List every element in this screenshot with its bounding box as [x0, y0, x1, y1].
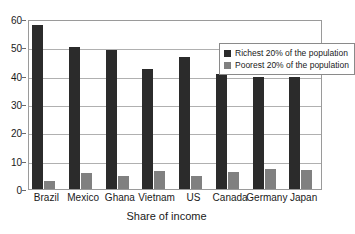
x-tick-label: Japan [290, 192, 317, 203]
y-tick-label: 50 [11, 43, 22, 54]
x-tick-label: Germany [246, 192, 287, 203]
bar-group [103, 21, 140, 189]
legend-label-richest: Richest 20% of the population [235, 47, 348, 59]
bar-richest [289, 77, 300, 189]
y-axis: 0102030405060 [0, 20, 26, 190]
y-tick-mark [22, 105, 26, 106]
legend-item-richest: Richest 20% of the population [224, 47, 349, 59]
bar-richest [253, 77, 264, 189]
x-tick-label: US [186, 192, 200, 203]
bar-richest [32, 25, 43, 189]
x-tick-label: Canada [213, 192, 248, 203]
x-axis-title: Share of income [0, 210, 333, 222]
bar-richest [179, 57, 190, 189]
y-tick-mark [22, 48, 26, 49]
y-tick-label: 30 [11, 100, 22, 111]
bar-poorest [118, 176, 129, 189]
y-tick-mark [22, 77, 26, 78]
bar-poorest [191, 176, 202, 189]
bar-group [176, 21, 213, 189]
y-tick-mark [22, 162, 26, 163]
y-tick-label: 20 [11, 128, 22, 139]
x-axis: BrazilMexicoGhanaVietnamUSCanadaGermanyJ… [28, 191, 322, 207]
y-tick-mark [22, 190, 26, 191]
y-tick-label: 10 [11, 156, 22, 167]
y-tick-mark [22, 133, 26, 134]
y-tick-label: 60 [11, 15, 22, 26]
bar-poorest [44, 181, 55, 190]
bar-richest [69, 47, 80, 189]
legend-swatch-icon-poorest [224, 62, 231, 69]
x-tick-label: Brazil [34, 192, 59, 203]
bar-poorest [301, 170, 312, 189]
bar-group [139, 21, 176, 189]
bar-poorest [154, 171, 165, 189]
bar-poorest [265, 169, 276, 189]
y-tick-label: 40 [11, 71, 22, 82]
chart-legend: Richest 20% of the population Poorest 20… [219, 43, 355, 75]
bar-poorest [81, 173, 92, 189]
legend-item-poorest: Poorest 20% of the population [224, 59, 349, 71]
y-tick-mark [22, 20, 26, 21]
bar-richest [142, 69, 153, 189]
x-tick-label: Mexico [67, 192, 99, 203]
bar-group [29, 21, 66, 189]
x-tick-label: Ghana [105, 192, 135, 203]
x-tick-label: Vietnam [138, 192, 175, 203]
bar-richest [106, 50, 117, 189]
plot-area: Richest 20% of the population Poorest 20… [28, 20, 322, 190]
legend-label-poorest: Poorest 20% of the population [235, 59, 349, 71]
legend-swatch-icon-richest [224, 50, 231, 57]
bar-group [66, 21, 103, 189]
bar-richest [216, 74, 227, 189]
bar-poorest [228, 172, 239, 189]
